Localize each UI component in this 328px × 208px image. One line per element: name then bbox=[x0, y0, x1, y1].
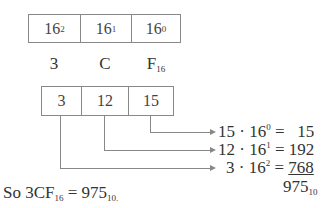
equation-row: 3 · 162 = 768 bbox=[226, 158, 314, 178]
connector-line bbox=[104, 116, 105, 151]
decimal-value-cell: 15 bbox=[129, 87, 173, 115]
place-value-box: 162 161 160 bbox=[28, 14, 181, 43]
place-value-cell: 162 bbox=[29, 15, 81, 42]
decimal-value-box: 3 12 15 bbox=[41, 86, 174, 116]
decimal-value-cell: 12 bbox=[82, 87, 129, 115]
connector-line bbox=[104, 150, 212, 151]
connector-line bbox=[150, 116, 151, 133]
arrow-right-icon bbox=[210, 129, 216, 135]
equation-row: 12 · 161 = 192 bbox=[218, 140, 314, 160]
connector-line bbox=[60, 116, 61, 169]
arrow-right-icon bbox=[210, 147, 216, 153]
conclusion-text: So 3CF16 = 97510. bbox=[3, 183, 118, 203]
place-value-cell: 161 bbox=[81, 15, 132, 42]
connector-line bbox=[150, 132, 212, 133]
connector-line bbox=[60, 168, 212, 169]
sum-value: 97510 bbox=[283, 177, 318, 197]
equation-row: 15 · 160 = 15 bbox=[218, 122, 314, 142]
place-value-cell: 160 bbox=[132, 15, 180, 42]
hex-digit: 3 bbox=[34, 54, 74, 74]
decimal-value-cell: 3 bbox=[42, 87, 82, 115]
arrow-right-icon bbox=[210, 165, 216, 171]
hex-digit: C bbox=[85, 54, 125, 74]
hex-digit: F16 bbox=[136, 54, 176, 74]
